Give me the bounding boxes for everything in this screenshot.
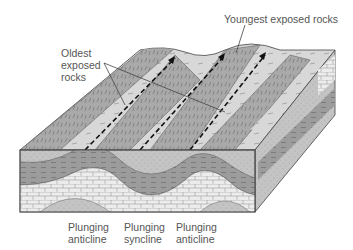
plunging-folds-block-diagram [0,0,353,250]
label-line1: Plunging [124,221,165,233]
label-line2: anticline [68,233,109,245]
oldest-label-line3: rocks [61,71,101,83]
label-line1: Plunging [176,221,217,233]
oldest-label-line1: Oldest [61,47,101,59]
plunging-anticline-label-right: Plunging anticline [176,221,217,245]
youngest-exposed-rocks-label: Youngest exposed rocks [224,13,338,25]
label-line2: anticline [176,233,217,245]
front-face [20,147,255,212]
plunging-syncline-label: Plunging syncline [124,221,165,245]
label-line2: syncline [124,233,165,245]
label-line1: Plunging [68,221,109,233]
oldest-exposed-rocks-label: Oldest exposed rocks [61,47,101,83]
oldest-label-line2: exposed [61,59,101,71]
plunging-anticline-label-left: Plunging anticline [68,221,109,245]
